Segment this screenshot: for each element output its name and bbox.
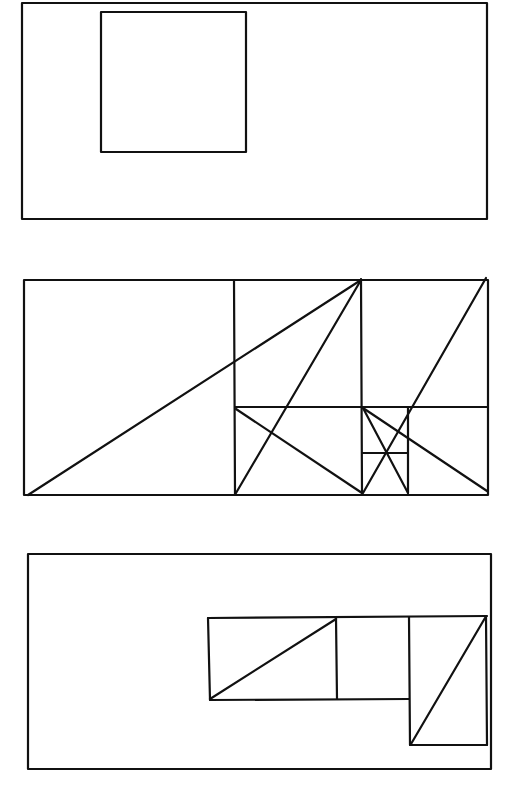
diagonal-line [236,409,362,493]
diagonal-line [363,278,486,493]
diagonal-line [486,616,487,745]
diagonal-line [236,280,361,493]
diagonal-line [210,619,336,699]
diagonal-line [208,618,210,700]
diagonal-line [409,617,410,745]
outer-rectangle [24,280,488,495]
diagram-canvas [0,0,519,802]
diagonal-line [336,618,337,699]
diagonal-line [363,408,487,491]
panel-3 [28,554,491,769]
diagonal-line [234,280,235,494]
inner-square [101,12,246,152]
panel-2 [24,278,488,495]
outer-rectangle [22,3,487,219]
diagram-figure: Golden rectangle subdivision diagrams [0,0,519,802]
division-line [208,616,487,618]
division-line [210,699,409,700]
panel-1 [22,3,487,219]
outer-rectangle [28,554,491,769]
diagonal-line [361,279,362,493]
diagonal-line [28,280,361,495]
diagonal-line [411,618,485,744]
